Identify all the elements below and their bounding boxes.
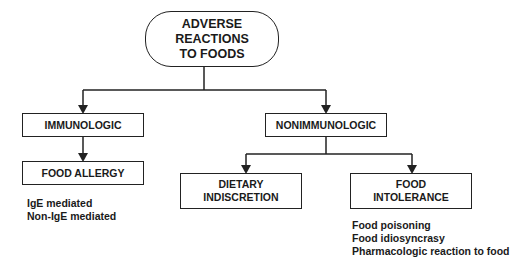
node-immunologic-label: IMMUNOLOGIC <box>45 119 122 132</box>
node-immunologic: IMMUNOLOGIC <box>22 113 144 137</box>
node-nonimmunologic-label: NONIMMUNOLOGIC <box>276 119 376 132</box>
note-non-ige-mediated: Non-IgE mediated <box>27 210 116 223</box>
node-food-allergy-label: FOOD ALLERGY <box>41 167 124 180</box>
intolerance-label-line2: INTOLERANCE <box>373 191 449 204</box>
root-label-line1: ADVERSE REACTIONS <box>146 17 278 47</box>
dietary-label-line1: DIETARY <box>203 178 278 191</box>
intolerance-label-line1: FOOD <box>373 178 449 191</box>
note-food-poisoning: Food poisoning <box>352 219 510 232</box>
node-nonimmunologic: NONIMMUNOLOGIC <box>265 113 387 137</box>
node-food-allergy: FOOD ALLERGY <box>22 161 144 185</box>
food-intolerance-notes: Food poisoning Food idiosyncrasy Pharmac… <box>352 219 510 258</box>
note-pharmacologic-reaction: Pharmacologic reaction to food <box>352 245 510 258</box>
root-node-adverse-reactions: ADVERSE REACTIONS TO FOODS <box>145 11 279 67</box>
note-ige-mediated: IgE mediated <box>27 197 116 210</box>
node-dietary-indiscretion: DIETARY INDISCRETION <box>180 173 302 209</box>
root-label-line2: TO FOODS <box>146 47 278 62</box>
food-allergy-notes: IgE mediated Non-IgE mediated <box>27 197 116 223</box>
dietary-label-line2: INDISCRETION <box>203 191 278 204</box>
note-food-idiosyncrasy: Food idiosyncrasy <box>352 232 510 245</box>
node-food-intolerance: FOOD INTOLERANCE <box>350 173 472 209</box>
